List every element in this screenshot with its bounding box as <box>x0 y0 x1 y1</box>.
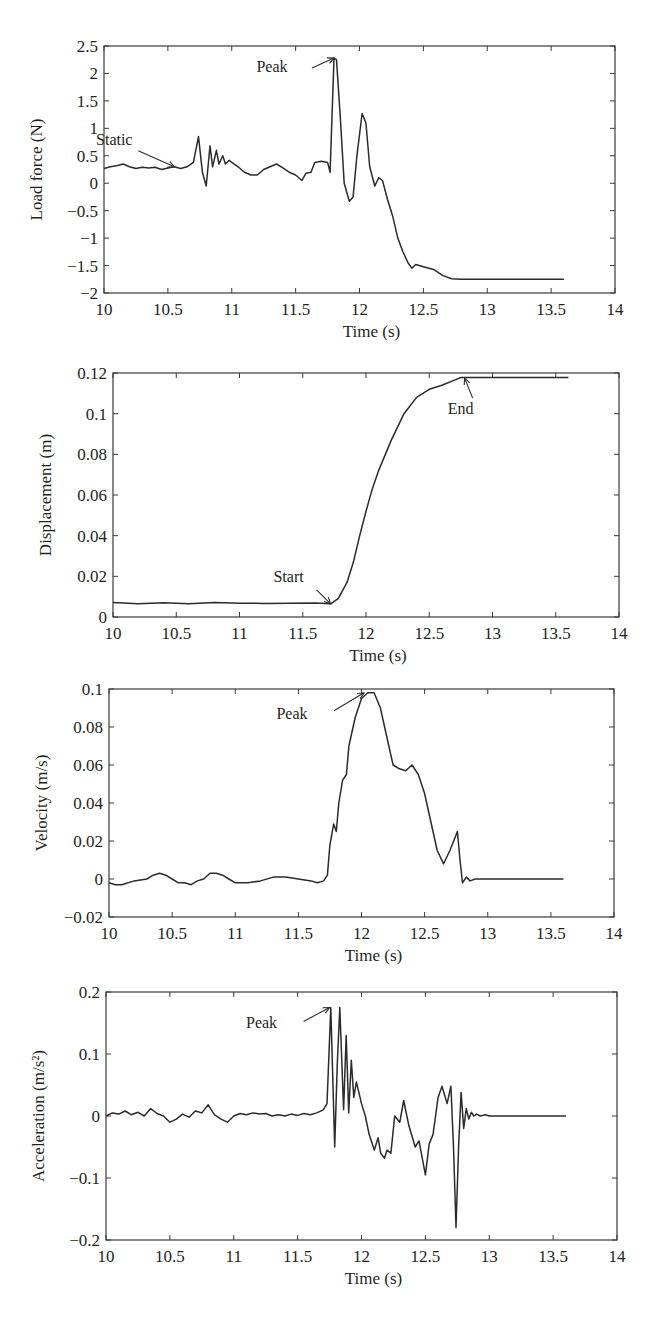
displacement-curve <box>113 378 568 604</box>
y-tick-label: 0.12 <box>77 364 107 383</box>
x-tick-label: 14 <box>607 300 625 319</box>
y-tick-label: 0.5 <box>77 147 98 166</box>
x-tick-label: 13 <box>484 624 501 643</box>
x-tick-label: 12 <box>353 924 370 943</box>
y-tick-label: −0.1 <box>69 1169 100 1188</box>
y-tick-label: 0.1 <box>82 680 103 699</box>
arrow-icon <box>317 590 331 604</box>
arrow-icon <box>304 1008 330 1022</box>
x-tick-label: 12 <box>351 300 368 319</box>
x-tick-label: 11.5 <box>288 624 317 643</box>
y-axis-title: Load force (N) <box>27 119 46 221</box>
x-tick-label: 11.5 <box>281 300 310 319</box>
x-tick-label: 13 <box>479 300 496 319</box>
x-tick-label: 11 <box>224 300 240 319</box>
y-tick-label: 0 <box>92 1107 101 1126</box>
y-tick-label: 0.06 <box>73 756 103 775</box>
x-tick-label: 10.5 <box>153 300 183 319</box>
x-tick-label: 11.5 <box>283 1247 312 1266</box>
y-axis-title: Acceleration (m/s²) <box>29 1050 48 1182</box>
x-tick-label: 12.5 <box>414 624 444 643</box>
x-tick-label: 10.5 <box>155 1247 185 1266</box>
x-tick-label: 11 <box>226 1247 242 1266</box>
x-axis-title: Time (s) <box>345 946 402 965</box>
displacement-chart: 1010.51111.51212.51313.51400.020.040.060… <box>36 364 628 665</box>
figure: 1010.51111.51212.51313.514−2−1.5−1−0.500… <box>0 0 647 1322</box>
y-axis-title: Displacement (m) <box>36 434 55 556</box>
x-tick-label: 12.5 <box>410 924 440 943</box>
annotation-end: End <box>448 400 474 417</box>
x-tick-label: 13 <box>481 1247 498 1266</box>
y-tick-label: 0 <box>99 608 108 627</box>
x-tick-label: 10 <box>98 1247 115 1266</box>
arrow-icon <box>334 693 364 711</box>
load-force-chart: 1010.51111.51212.51313.514−2−1.5−1−0.500… <box>27 37 624 341</box>
y-tick-label: 0 <box>90 174 99 193</box>
arrow-icon <box>138 151 174 167</box>
y-tick-label: 0.08 <box>77 445 107 464</box>
y-tick-label: 2.5 <box>77 37 98 56</box>
x-tick-label: 14 <box>611 624 629 643</box>
y-tick-label: −2 <box>80 284 98 303</box>
acceleration-chart: 1010.51111.51212.51313.514−0.2−0.100.10.… <box>29 983 626 1288</box>
x-tick-label: 11 <box>227 924 243 943</box>
annotation-static: Static <box>96 131 132 148</box>
x-tick-label: 13.5 <box>541 624 571 643</box>
x-tick-label: 10 <box>101 924 118 943</box>
x-tick-label: 13.5 <box>536 924 566 943</box>
y-tick-label: 0.2 <box>79 983 100 1002</box>
y-tick-label: 0.1 <box>79 1045 100 1064</box>
annotation-peak: Peak <box>256 58 287 75</box>
y-tick-label: −1 <box>80 229 98 248</box>
x-tick-label: 14 <box>606 924 624 943</box>
y-tick-label: −0.2 <box>69 1231 100 1250</box>
annotation-peak: Peak <box>276 705 307 722</box>
y-tick-label: −1.5 <box>67 257 98 276</box>
x-axis-title: Time (s) <box>349 646 406 665</box>
y-tick-label: 0.06 <box>77 486 107 505</box>
x-tick-label: 13 <box>479 924 496 943</box>
x-tick-label: 12.5 <box>411 1247 441 1266</box>
y-tick-label: −0.5 <box>67 202 98 221</box>
annotation-peak: Peak <box>246 1014 277 1031</box>
x-tick-label: 10.5 <box>161 624 191 643</box>
y-tick-label: 0.04 <box>77 527 107 546</box>
x-tick-label: 10 <box>105 624 122 643</box>
y-tick-label: 2 <box>90 64 99 83</box>
y-axis-title: Velocity (m/s) <box>32 755 51 852</box>
load-force-curve <box>104 58 564 279</box>
y-tick-label: −0.02 <box>64 908 103 927</box>
x-tick-label: 12.5 <box>409 300 439 319</box>
x-tick-label: 13.5 <box>538 1247 568 1266</box>
x-tick-label: 13.5 <box>536 300 566 319</box>
acceleration-curve <box>106 1008 566 1228</box>
x-tick-label: 12 <box>358 624 375 643</box>
x-tick-label: 10 <box>96 300 113 319</box>
x-axis-title: Time (s) <box>345 1269 402 1288</box>
x-tick-label: 10.5 <box>157 924 187 943</box>
y-tick-label: 1.5 <box>77 92 98 111</box>
annotation-start: Start <box>273 568 304 585</box>
y-tick-label: 0 <box>95 870 104 889</box>
y-tick-label: 0.04 <box>73 794 103 813</box>
y-tick-label: 0.1 <box>86 405 107 424</box>
velocity-curve <box>109 693 564 885</box>
arrow-icon <box>312 58 334 68</box>
y-tick-label: 0.08 <box>73 718 103 737</box>
x-tick-label: 12 <box>353 1247 370 1266</box>
plot-frame <box>104 46 615 293</box>
x-tick-label: 11.5 <box>284 924 313 943</box>
x-axis-title: Time (s) <box>343 322 400 341</box>
x-tick-label: 11 <box>231 624 247 643</box>
y-tick-label: 0.02 <box>77 567 107 586</box>
velocity-chart: 1010.51111.51212.51313.514−0.0200.020.04… <box>32 680 623 965</box>
y-tick-label: 0.02 <box>73 832 103 851</box>
plot-frame <box>113 373 619 617</box>
x-tick-label: 14 <box>609 1247 627 1266</box>
